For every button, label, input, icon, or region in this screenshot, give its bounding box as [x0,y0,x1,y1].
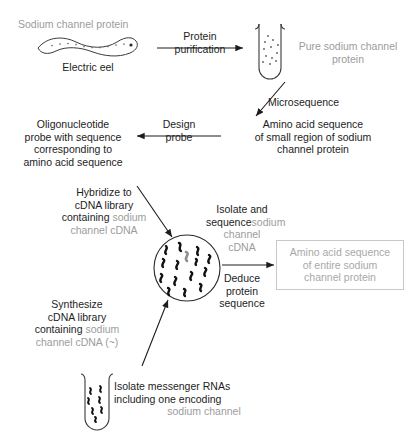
label-electric-eel: Electric eel [38,61,138,74]
target-cdna-squiggle [186,252,188,261]
label-isolate-and-sequence: Isolate and sequencesodium channel cDNA [206,203,278,253]
label-microsequence: Microsequence [268,96,358,109]
page-title-sodium-channel-protein: Sodium channel protein [18,18,138,31]
label-design-probe: Design probe [144,118,214,143]
arrow-synthesize-library [142,300,168,366]
label-deduce-protein-sequence: Deduce protein sequence [206,272,278,310]
test-tube-purified-protein-icon [255,24,285,79]
mrna-text-gray: sodium channel [114,405,294,418]
electric-eel-icon [38,38,137,56]
label-pure-sodium-channel-protein: Pure sodium channel protein [292,40,404,65]
label-protein-purification: Protein purification [155,30,245,55]
label-amino-acid-small-region: Amino acid sequence of small region of s… [222,118,404,156]
label-hybridize-to-library: Hybridize to cDNA library containing sod… [52,186,156,236]
label-oligonucleotide-probe: Oligonucleotide probe with sequence corr… [10,118,136,168]
label-synthesize-library: Synthesize cDNA library containing sodiu… [18,298,136,348]
label-isolate-messenger-rnas: Isolate messenger RNAs including one enc… [114,380,294,418]
output-box-amino-acid-entire: Amino acid sequence of entire sodium cha… [276,240,404,290]
mrna-text-black: Isolate messenger RNAs including one enc… [114,380,230,405]
test-tube-mrna-icon [81,374,113,430]
